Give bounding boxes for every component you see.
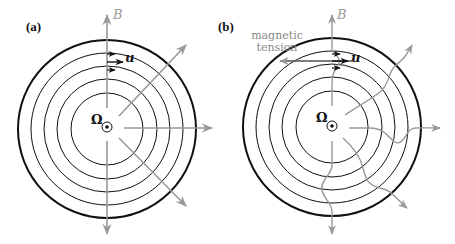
diagram-canvas [0, 0, 455, 244]
velocity-label-u: u [351, 50, 360, 65]
panel-label-a: (a) [26, 19, 41, 35]
rotation-axis-symbol [102, 122, 112, 132]
field-label-b: B [337, 7, 347, 22]
field-label-b: B [113, 7, 123, 22]
annotation-line-2: tension [240, 42, 314, 54]
magnetic-tension-label: magnetic tension [240, 30, 314, 54]
panel-label-b: (b) [218, 19, 234, 35]
rotation-axis-symbol [327, 121, 337, 131]
rotation-label-omega: Ω [91, 112, 103, 127]
panel-a [18, 15, 212, 234]
rotation-label-omega: Ω [316, 110, 328, 125]
velocity-label-u: u [125, 50, 134, 65]
